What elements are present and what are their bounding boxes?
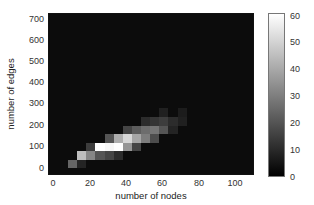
heatmap-cell: [159, 108, 168, 117]
x-tick: 0: [50, 178, 55, 188]
y-axis-label: number of edges: [5, 58, 16, 129]
y-tick: 300: [29, 98, 44, 108]
heatmap-cell: [150, 126, 159, 135]
colorbar-tick: 40: [290, 64, 300, 74]
colorbar-tick: 0: [290, 172, 295, 182]
heatmap-cell: [132, 134, 141, 143]
heatmap-cell: [123, 143, 132, 152]
heatmap-cell: [178, 108, 187, 117]
heatmap-cell: [123, 126, 132, 135]
heatmap-cell: [105, 151, 114, 160]
heatmap-cell: [141, 117, 150, 126]
heatmap-cell: [105, 143, 114, 152]
heatmap-cell: [178, 117, 187, 126]
heatmap-cell: [159, 117, 168, 126]
heatmap-cell: [150, 117, 159, 126]
x-tick: 80: [194, 178, 204, 188]
y-tick: 500: [29, 56, 44, 66]
heatmap-cell: [86, 143, 95, 152]
x-tick: 60: [157, 178, 167, 188]
y-tick: 600: [29, 35, 44, 45]
heatmap-cell: [114, 134, 123, 143]
heatmap-cell: [159, 126, 168, 135]
heatmap-cell: [123, 134, 132, 143]
colorbar-tick: 60: [290, 11, 300, 21]
heatmap-cell: [95, 143, 104, 152]
heatmap-cell: [114, 143, 123, 152]
colorbar-tick: 30: [290, 91, 300, 101]
heatmap-cell: [77, 160, 86, 169]
heatmap-cell: [168, 126, 177, 135]
heatmap-cell: [168, 117, 177, 126]
heatmap-cell: [141, 126, 150, 135]
colorbar-tick: 20: [290, 118, 300, 128]
heatmap-cell: [132, 143, 141, 152]
y-tick: 400: [29, 77, 44, 87]
heatmap-cell: [150, 134, 159, 143]
x-tick: 40: [121, 178, 131, 188]
y-tick: 0: [39, 163, 44, 173]
heatmap-cell: [86, 151, 95, 160]
x-tick: 20: [85, 178, 95, 188]
heatmap-cell: [141, 134, 150, 143]
heatmap-cell: [77, 151, 86, 160]
y-tick: 200: [29, 120, 44, 130]
x-axis-label: number of nodes: [115, 190, 186, 201]
colorbar-tick: 50: [290, 37, 300, 47]
heatmap-cell: [132, 126, 141, 135]
x-tick: 100: [227, 178, 242, 188]
heatmap-cell: [114, 151, 123, 160]
heatmap-cell: [68, 160, 77, 169]
heatmap-cell: [95, 151, 104, 160]
colorbar: [268, 13, 285, 177]
y-tick: 700: [29, 14, 44, 24]
colorbar-tick: 10: [290, 145, 300, 155]
heatmap-cell: [105, 134, 114, 143]
y-tick: 100: [29, 141, 44, 151]
heatmap-plot-area: [48, 13, 254, 175]
